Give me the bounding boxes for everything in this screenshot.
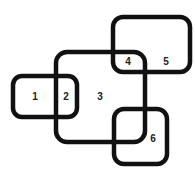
region-label-6: 6 [150,133,156,144]
region-label-2: 2 [63,91,69,102]
region-label-3: 3 [97,91,103,102]
bottom-right-box [114,109,167,164]
region-label-5: 5 [163,56,169,67]
region-label-1: 1 [32,91,38,102]
region-label-4: 4 [125,56,131,67]
venn-diagram: 1 2 3 4 5 6 [0,0,195,173]
